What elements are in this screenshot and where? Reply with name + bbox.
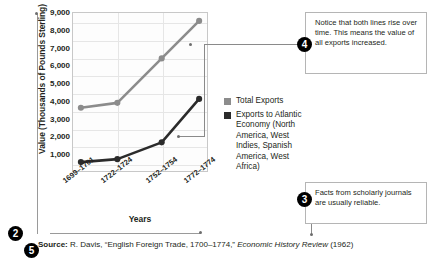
figure-root: 2 5 Value (Thousands of Pounds Sterling)… [0,0,432,259]
source-journal: Economic History Review [237,240,328,249]
callout-badge-2[interactable]: 2 [8,226,23,241]
callout-4-text: Notice that both lines rise over time. T… [315,18,417,47]
annotation-rule-bottom-dot [199,231,202,234]
datapoint-total-1772 [196,18,202,24]
callout-box-4: Notice that both lines rise over time. T… [305,12,427,74]
line-atlantic-exports [81,99,199,162]
legend-swatch-icon-atlantic [224,112,231,119]
y-tick-2000: 2,000 [50,132,70,141]
callout-badge-5[interactable]: 5 [24,243,39,258]
x-axis-title: Years [72,214,208,224]
datapoint-total-1752 [159,55,165,61]
y-axis-tick-labels: 9,000 8,000 7,000 6,000 5,000 4,000 3,00… [40,8,70,176]
source-citation: Source: R. Davis, “English Foreign Trade… [38,239,353,250]
series-lines [73,13,207,171]
legend-label-atlantic: Exports to Atlantic Economy (North Ameri… [236,110,312,173]
callout-4-anchor-dot-bottom [177,135,180,138]
y-tick-6000: 6,000 [50,61,70,70]
annotation-rule-bottom [50,233,201,234]
callout-4-connector-vertical [204,44,205,136]
callout-box-3: Facts from scholarly journals are usuall… [305,182,427,224]
y-tick-1000: 1,000 [50,150,70,159]
callout-3-text: Facts from scholarly journals are usuall… [315,188,412,207]
legend-item-total-exports: Total Exports [224,96,312,107]
datapoint-total-1699 [78,105,84,111]
callout-badge-4[interactable]: 4 [297,37,312,52]
y-tick-5000: 5,000 [50,79,70,88]
callout-4-connector-top [204,44,305,45]
legend-swatch-icon-total [224,98,231,105]
source-label: Source: [38,240,68,249]
datapoint-atlantic-1752 [159,139,165,145]
y-tick-9000: 9,000 [50,8,70,17]
callout-badge-3[interactable]: 3 [297,192,312,207]
y-tick-8000: 8,000 [50,26,70,35]
callout-4-anchor-dot-top [189,43,192,46]
y-tick-7000: 7,000 [50,44,70,53]
datapoint-atlantic-1772 [196,96,202,102]
plot-area [72,12,208,172]
legend-item-atlantic-exports: Exports to Atlantic Economy (North Ameri… [224,110,312,173]
line-total-exports [81,21,199,108]
chart-legend: Total Exports Exports to Atlantic Econom… [224,96,312,176]
source-article: “English Foreign Trade, 1700–1774,” [105,240,235,249]
y-tick-4000: 4,000 [50,97,70,106]
callout-4-connector-bottom [178,136,205,137]
datapoint-total-1722 [114,100,120,106]
callout-3-anchor-dot [310,233,313,236]
y-tick-3000: 3,000 [50,115,70,124]
source-year: (1962) [330,240,353,249]
source-author: R. Davis, [70,240,102,249]
legend-label-total: Total Exports [236,96,283,107]
